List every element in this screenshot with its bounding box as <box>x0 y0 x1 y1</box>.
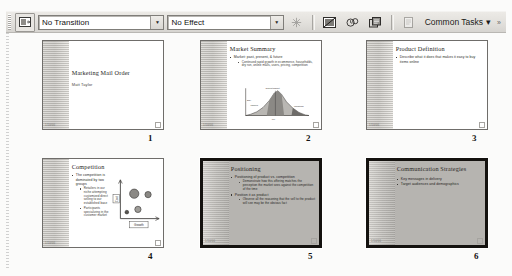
svg-text:Mainstream: Mainstream <box>294 105 304 107</box>
slide-title: Product Definition <box>396 45 484 52</box>
svg-text:Growth: Growth <box>134 224 144 228</box>
transition-value: No Transition <box>42 16 150 29</box>
slide-content: Communication Strategies Key messages in… <box>397 165 482 241</box>
slide-bullet-list: The competition is dominated by two grou… <box>72 173 113 218</box>
slide-bullet-text: The competition is dominated by two grou… <box>76 173 105 186</box>
slide-sub-bullet-list: Continued rapid growth in ecommerce, hou… <box>234 61 318 68</box>
slide-bullet: Target audiences and demographics <box>397 182 482 186</box>
slide-row: 1/10/00 Competition The competition is d… <box>14 154 506 270</box>
slide-content: Positioning Positioning of product vs. c… <box>231 165 316 241</box>
slide-sub-bullet-list: Observe all the reasoning that the sell … <box>235 198 316 205</box>
slide-number-placeholder <box>479 122 485 128</box>
slide-footer-date: 1/10/00 <box>369 124 379 127</box>
slide-sub-bullet-list: Retailers in our niche attempting custom… <box>76 187 113 218</box>
slide-cell: 1/10/00 Communication Strategies Key mes… <box>352 154 506 270</box>
slide-caption-number: 2 <box>306 133 311 143</box>
slide-thumbnail-2[interactable]: 1/10/00 Market Summary Market: past, pre… <box>200 40 322 130</box>
slide-thumbnail-4[interactable]: 1/10/00 Competition The competition is d… <box>42 158 164 248</box>
toolbar-overflow-button[interactable]: » <box>497 19 504 26</box>
chevron-down-icon[interactable]: ▾ <box>486 17 491 27</box>
slide-content: Competition The competition is dominated… <box>72 163 113 242</box>
slide-bullet: Market: past, present, & future Continue… <box>230 55 318 68</box>
slide-caption-number: 1 <box>148 133 153 143</box>
summary-slide-icon[interactable] <box>366 13 386 32</box>
effect-combo[interactable]: No Effect ▼ <box>167 15 283 30</box>
slide-footer-date: 1/10/00 <box>205 240 215 243</box>
slide-number-placeholder <box>311 238 317 244</box>
slide-title: Competition <box>72 163 113 170</box>
bell-curve-chart: Current market Early adopters Mainstream… <box>237 87 311 126</box>
slide-sorter-window: No Transition ▼ No Effect ▼ <box>0 0 512 276</box>
hide-slide-icon[interactable] <box>320 13 340 32</box>
slide-bullet-list: Market: past, present, & future Continue… <box>230 55 318 68</box>
svg-text:Cost: Cost <box>114 197 118 203</box>
transition-combo[interactable]: No Transition ▼ <box>38 15 164 30</box>
rehearse-timings-icon[interactable] <box>343 13 363 32</box>
svg-text:adopters: adopters <box>251 104 258 106</box>
slide-thumbnail-1[interactable]: 1/10/00 Marketing Mail Order Matt Taylor <box>42 40 164 130</box>
slide-footer-date: 1/10/00 <box>203 124 213 127</box>
chevron-down-icon[interactable]: ▼ <box>150 16 163 29</box>
slide-cell: 1/10/00 Positioning Positioning of produ… <box>186 154 352 270</box>
slide-title: Marketing Mail Order <box>72 69 160 76</box>
slide-sorter-pane[interactable]: 1/10/00 Marketing Mail Order Matt Taylor… <box>14 38 506 270</box>
svg-text:Early: Early <box>247 98 251 100</box>
slide-thumbnail-5[interactable]: 1/10/00 Positioning Positioning of produ… <box>200 158 322 248</box>
slide-bullet: The competition is dominated by two grou… <box>72 173 113 218</box>
slide-bullet-list: Positioning of product vs. competition D… <box>231 175 316 205</box>
slide-cell: 1/10/00 Market Summary Market: past, pre… <box>186 38 352 154</box>
slide-bullet-text: Position it as product <box>235 193 269 197</box>
slide-cell: 1/10/00 Competition The competition is d… <box>14 154 186 270</box>
slide-content: Product Definition Describe what it does… <box>396 45 484 124</box>
slide-caption-number: 5 <box>308 251 313 261</box>
svg-text:Current market: Current market <box>266 87 280 89</box>
slide-cell: 1/10/00 Marketing Mail Order Matt Taylor… <box>14 38 186 154</box>
slide-transition-icon[interactable] <box>15 13 35 32</box>
chevron-down-icon[interactable]: ▼ <box>270 16 283 29</box>
slide-template-band: 1/10/00 <box>367 41 393 129</box>
slide-content: Marketing Mail Order Matt Taylor <box>72 69 160 124</box>
slide-number-placeholder <box>313 122 319 128</box>
slide-sub-bullet: Continued rapid growth in ecommerce, hou… <box>238 61 318 68</box>
left-gutter-divider <box>6 30 9 270</box>
slide-template-band: 1/10/00 <box>43 159 69 247</box>
slide-template-band: 1/10/00 <box>201 41 227 129</box>
slide-thumbnail-6[interactable]: 1/10/00 Communication Strategies Key mes… <box>366 158 488 248</box>
toolbar-separator <box>312 15 315 30</box>
slide-number-placeholder <box>155 122 161 128</box>
effect-value: No Effect <box>171 16 269 29</box>
slide-bullet-list: Key messages in delivery Target audience… <box>397 177 482 187</box>
slide-sub-bullet-list: Demonstrate how this offering matches th… <box>235 180 316 191</box>
slide-cell: 1/10/00 Product Definition Describe what… <box>352 38 506 154</box>
bubble-chart: Cost Growth <box>113 178 161 233</box>
slide-bullet: Positioning of product vs. competition D… <box>231 175 316 191</box>
toolbar-separator <box>391 15 394 30</box>
slide-title: Positioning <box>231 165 316 172</box>
slide-template-band: 1/10/00 <box>369 161 395 245</box>
slide-bullet: Key messages in delivery <box>397 177 482 181</box>
slide-footer-date: 1/10/00 <box>45 242 55 245</box>
slide-sub-bullet: Participants specializing in the custome… <box>80 207 113 218</box>
slide-sub-bullet: Retailers in our niche attempting custom… <box>80 187 113 206</box>
svg-text:Time: Time <box>272 119 276 120</box>
slide-sorter-toolbar: No Transition ▼ No Effect ▼ <box>6 11 506 33</box>
slide-caption-number: 6 <box>474 251 479 261</box>
slide-template-band: 1/10/00 <box>43 41 69 129</box>
slide-bullet: Describe what it does that makes it easy… <box>396 55 484 64</box>
slide-title: Market Summary <box>230 45 318 52</box>
speaker-notes-icon[interactable] <box>399 13 419 32</box>
star-sparkle-icon[interactable] <box>287 13 307 32</box>
slide-thumbnail-3[interactable]: 1/10/00 Product Definition Describe what… <box>366 40 488 130</box>
slide-number-placeholder <box>155 240 161 246</box>
slide-sub-bullet: Observe all the reasoning that the sell … <box>239 198 316 205</box>
slide-footer-date: 1/10/00 <box>371 240 381 243</box>
slide-caption-number: 3 <box>472 133 477 143</box>
slide-subtitle: Matt Taylor <box>72 82 160 87</box>
common-tasks-button[interactable]: Common Tasks ▾ <box>422 14 494 31</box>
slide-bullet-text: Market: past, present, & future <box>234 55 283 59</box>
slide-footer-date: 1/10/00 <box>45 124 55 127</box>
slide-row: 1/10/00 Marketing Mail Order Matt Taylor… <box>14 38 506 154</box>
slide-sub-bullet: Demonstrate how this offering matches th… <box>239 180 316 191</box>
toolbar-overflow-label: » <box>497 19 501 26</box>
toolbar-drag-handle[interactable] <box>8 14 11 30</box>
